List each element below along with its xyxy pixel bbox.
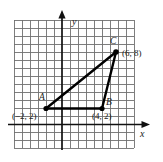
point-a-marker [43, 106, 48, 111]
point-c-marker [113, 49, 119, 55]
x-axis-label: x [140, 129, 144, 139]
coordinate-plane-graphic [0, 0, 163, 162]
point-a-coordinate-label: (−2, 2) [12, 112, 37, 121]
x-axis [8, 121, 150, 128]
y-axis [58, 10, 65, 150]
point-c-label: C [110, 37, 116, 47]
y-axis-label: y [72, 17, 76, 27]
point-a-label: A [39, 93, 45, 103]
figure-canvas: y x A (−2, 2) B (4, 2) C (6, 8) [0, 0, 163, 162]
y-axis-arrow-icon [58, 10, 65, 19]
point-b-coordinate-label: (4, 2) [92, 112, 112, 121]
point-b-label: B [106, 98, 112, 108]
point-c-coordinate-label: (6, 8) [122, 49, 142, 58]
x-axis-arrow-icon [142, 121, 151, 128]
